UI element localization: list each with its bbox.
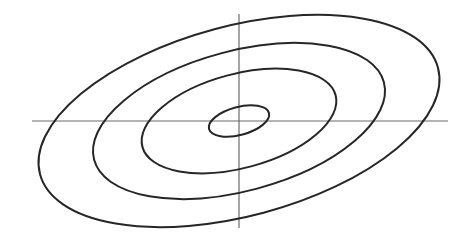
figure-canvas — [0, 0, 469, 238]
figure-background — [0, 0, 469, 238]
ellipse-diagram-svg — [0, 0, 469, 238]
